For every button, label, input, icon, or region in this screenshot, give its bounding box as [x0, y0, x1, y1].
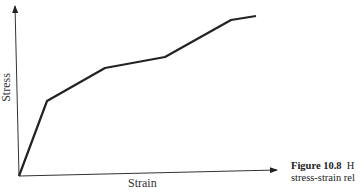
- y-axis-label: Stress: [0, 73, 14, 102]
- figure-label: Figure 10.8: [291, 160, 342, 171]
- x-axis-label: Strain: [128, 176, 157, 191]
- caption-line1: H: [347, 160, 355, 171]
- caption-line2: stress-strain rel: [291, 172, 355, 184]
- y-axis: [15, 6, 19, 176]
- figure-caption: Figure 10.8 H stress-strain rel: [291, 160, 355, 184]
- stress-strain-curve: [19, 16, 256, 176]
